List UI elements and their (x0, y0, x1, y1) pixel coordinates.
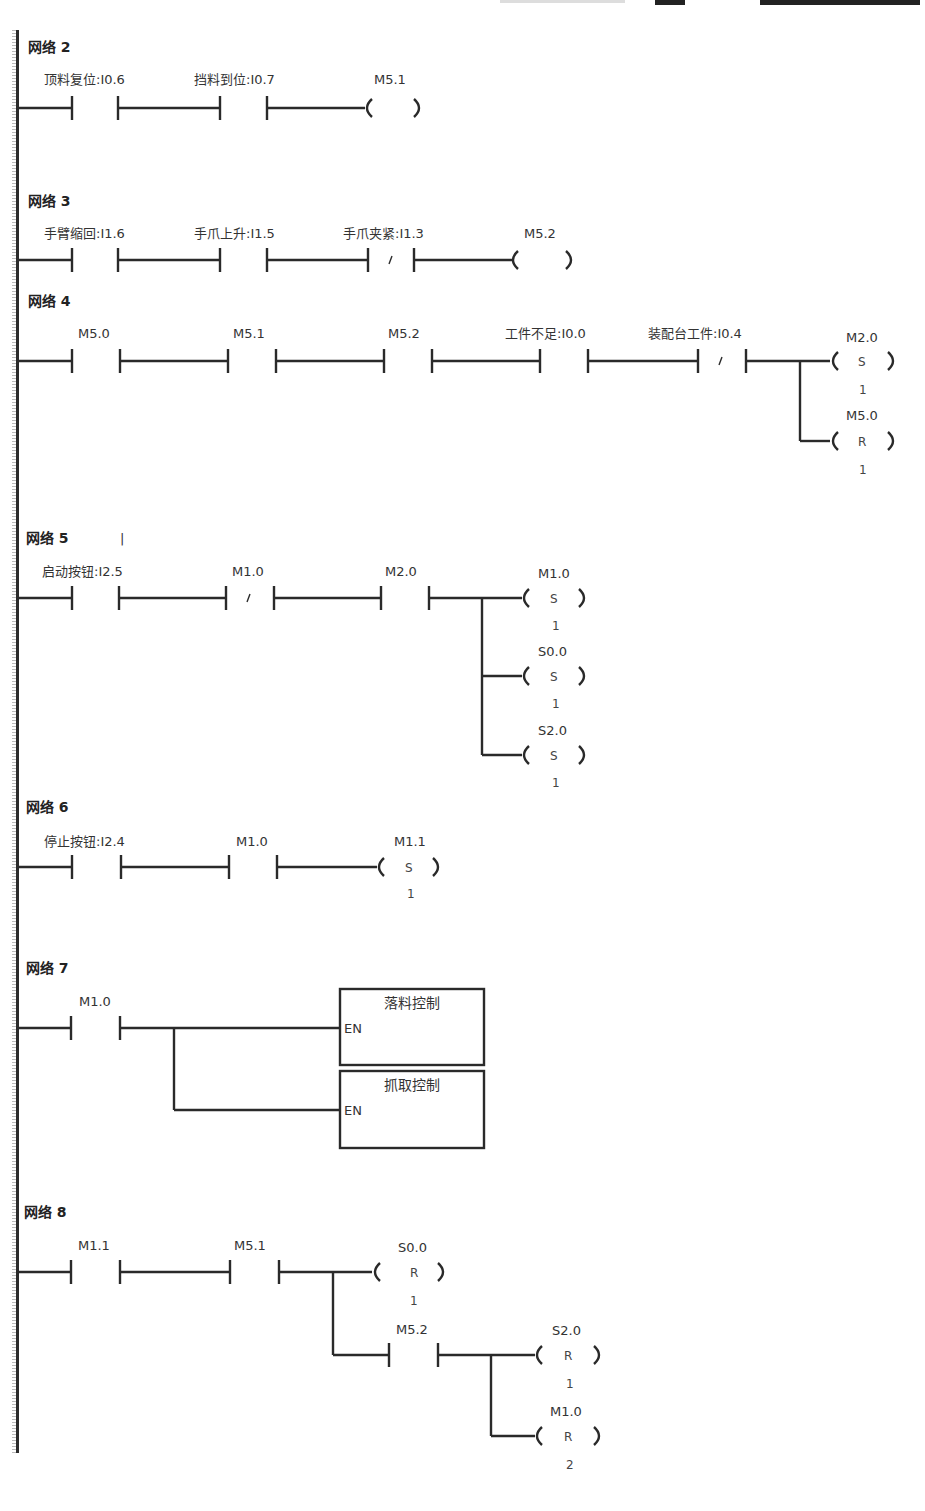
contact-no[interactable] (72, 586, 119, 610)
box-title: 抓取控制 (384, 1077, 440, 1093)
subroutine-box-zhuaqu[interactable]: 抓取控制 EN (340, 1071, 484, 1148)
coil-type: R (564, 1430, 572, 1444)
coil-reset[interactable]: R (537, 1346, 599, 1364)
network-6: 网络 6 停止按钮:I2.4 M1.0 M1.1 S 1 (19, 799, 438, 901)
coil[interactable] (513, 251, 571, 269)
contact-no[interactable] (229, 855, 277, 879)
network-3: 网络 3 手臂缩回:I1.6 手爪上升:I1.5 手爪夹紧:I1.3 M5.2 (19, 193, 571, 272)
coil-label: S2.0 (538, 723, 567, 738)
coil-label: S2.0 (552, 1323, 581, 1338)
contact-label: 装配台工件:I0.4 (648, 326, 742, 341)
contact-label: M5.2 (388, 326, 420, 341)
contact-no[interactable] (72, 855, 121, 879)
network-5: 网络 5 | 启动按钮:I2.5 M1.0 M2.0 M1.0 S 1 S0.0… (19, 530, 584, 790)
contact-label: 手爪夹紧:I1.3 (343, 226, 424, 241)
contact-no[interactable] (71, 1016, 120, 1040)
coil-label: S0.0 (538, 644, 567, 659)
coil-reset[interactable]: R (375, 1263, 443, 1281)
network-title: 网络 7 (26, 960, 69, 976)
contact-label: M1.0 (79, 994, 111, 1009)
contact-no[interactable] (384, 349, 432, 373)
coil-label: M5.2 (524, 226, 556, 241)
coil-type: S (550, 670, 558, 684)
contact-label: M5.2 (396, 1322, 428, 1337)
contact-no[interactable] (72, 96, 118, 120)
text-cursor: | (120, 531, 124, 546)
contact-label: M5.1 (234, 1238, 266, 1253)
contact-no[interactable] (220, 96, 267, 120)
contact-label: M1.0 (236, 834, 268, 849)
contact-label: 挡料到位:I0.7 (194, 72, 275, 87)
coil-label: M1.0 (538, 566, 570, 581)
coil-type: R (564, 1349, 572, 1363)
network-2: 网络 2 顶料复位:I0.6 挡料到位:I0.7 M5.1 (19, 39, 419, 120)
contact-label: M5.0 (78, 326, 110, 341)
contact-no[interactable] (220, 248, 267, 272)
coil-set[interactable]: S (379, 858, 438, 876)
box-title: 落料控制 (384, 995, 440, 1011)
network-title: 网络 4 (28, 293, 71, 309)
contact-no[interactable] (540, 349, 588, 373)
contact-no[interactable] (389, 1343, 438, 1367)
contact-nc[interactable] (226, 586, 274, 610)
coil-label: M2.0 (846, 330, 878, 345)
coil-count: 1 (552, 776, 560, 790)
coil-count: 1 (859, 383, 867, 397)
network-title: 网络 6 (26, 799, 69, 815)
coil-type: S (858, 355, 866, 369)
contact-label: 顶料复位:I0.6 (44, 72, 125, 87)
coil-set[interactable]: S (524, 746, 584, 764)
coil-count: 1 (410, 1294, 418, 1308)
contact-no[interactable] (71, 1260, 120, 1284)
coil-reset[interactable]: R (833, 432, 893, 450)
contact-label: M1.0 (232, 564, 264, 579)
contact-label: 手臂缩回:I1.6 (44, 226, 125, 241)
contact-no[interactable] (230, 1260, 279, 1284)
contact-label: 工件不足:I0.0 (505, 326, 586, 341)
contact-nc[interactable] (368, 248, 414, 272)
coil-label: M5.0 (846, 408, 878, 423)
coil-type: S (550, 592, 558, 606)
network-8: 网络 8 M1.1 M5.1 S0.0 R 1 M5.2 S2.0 R 1 M1… (16, 1204, 599, 1472)
network-title: 网络 3 (28, 193, 71, 209)
coil-type: S (405, 861, 413, 875)
network-4: 网络 4 M5.0 M5.1 M5.2 工件不足:I0.0 装配台工件:I0.4… (19, 293, 893, 477)
en-pin: EN (344, 1021, 362, 1036)
en-pin: EN (344, 1103, 362, 1118)
coil-label: S0.0 (398, 1240, 427, 1255)
contact-no[interactable] (381, 586, 429, 610)
network-title: 网络 8 (24, 1204, 67, 1220)
coil-count: 1 (566, 1377, 574, 1391)
contact-nc[interactable] (698, 349, 746, 373)
contact-label: M5.1 (233, 326, 265, 341)
coil-count: 2 (566, 1458, 574, 1472)
coil-set[interactable]: S (524, 589, 584, 607)
coil-set[interactable]: S (833, 352, 893, 370)
subroutine-box-luoliao[interactable]: 落料控制 EN (340, 989, 484, 1065)
coil-type: S (550, 749, 558, 763)
contact-label: 停止按钮:I2.4 (44, 834, 125, 849)
coil-count: 1 (859, 463, 867, 477)
ladder-diagram: 网络 2 顶料复位:I0.6 挡料到位:I0.7 M5.1 网络 3 手臂缩回:… (0, 0, 925, 1511)
coil-label: M5.1 (374, 72, 406, 87)
coil-type: R (410, 1266, 418, 1280)
contact-label: 启动按钮:I2.5 (42, 564, 123, 579)
contact-no[interactable] (228, 349, 276, 373)
coil-count: 1 (407, 887, 415, 901)
coil-label: M1.0 (550, 1404, 582, 1419)
network-7: 网络 7 M1.0 落料控制 EN 抓取控制 EN (19, 960, 484, 1148)
coil-count: 1 (552, 619, 560, 633)
coil-set[interactable]: S (524, 667, 584, 685)
contact-no[interactable] (72, 248, 118, 272)
contact-label: M1.1 (78, 1238, 110, 1253)
contact-label: M2.0 (385, 564, 417, 579)
contact-no[interactable] (72, 349, 120, 373)
coil[interactable] (367, 99, 419, 117)
network-title: 网络 2 (28, 39, 71, 55)
coil-reset[interactable]: R (537, 1427, 599, 1445)
coil-count: 1 (552, 697, 560, 711)
contact-label: 手爪上升:I1.5 (194, 226, 275, 241)
network-title: 网络 5 (26, 530, 69, 546)
coil-type: R (858, 435, 866, 449)
coil-label: M1.1 (394, 834, 426, 849)
